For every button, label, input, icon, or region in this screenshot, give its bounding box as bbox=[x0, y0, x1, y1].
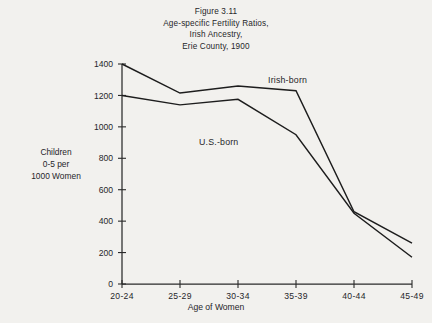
y-tick-label: 600 bbox=[99, 185, 114, 195]
y-tick-label: 1200 bbox=[94, 91, 113, 101]
x-tick-label: 40-44 bbox=[342, 291, 365, 301]
line-chart-plot: 0200400600800100012001400 20-2425-2930-3… bbox=[0, 0, 432, 323]
x-tick-label: 30-34 bbox=[226, 291, 249, 301]
series-line-irish-born bbox=[122, 64, 412, 243]
y-tick-label: 400 bbox=[99, 216, 114, 226]
x-tick-label: 45-49 bbox=[400, 291, 423, 301]
y-tick-label: 1000 bbox=[94, 122, 113, 132]
x-tick-label: 35-39 bbox=[284, 291, 307, 301]
x-axis-ticks: 20-2425-2930-3435-3940-4445-49 bbox=[110, 280, 423, 301]
y-tick-label: 200 bbox=[99, 248, 114, 258]
x-tick-label: 20-24 bbox=[110, 291, 133, 301]
series-annotations: Irish-bornU.S.-born bbox=[199, 75, 307, 147]
y-tick-label: 0 bbox=[108, 279, 113, 289]
annotation-u-s-born: U.S.-born bbox=[199, 137, 238, 147]
y-tick-label: 800 bbox=[99, 153, 114, 163]
series-line-u-s-born bbox=[122, 95, 412, 257]
annotation-irish-born: Irish-born bbox=[268, 75, 307, 85]
y-tick-label: 1400 bbox=[94, 59, 113, 69]
figure-container: Figure 3.11 Age-specific Fertility Ratio… bbox=[0, 0, 432, 323]
y-axis-ticks: 0200400600800100012001400 bbox=[94, 59, 126, 289]
data-series-group bbox=[122, 64, 412, 257]
x-tick-label: 25-29 bbox=[168, 291, 191, 301]
